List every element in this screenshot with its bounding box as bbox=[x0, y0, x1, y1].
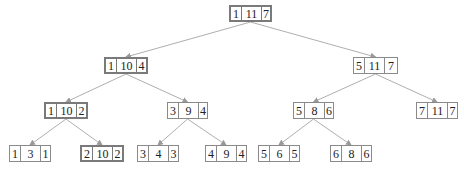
node-value: 5 bbox=[354, 58, 364, 73]
node-value: 2 bbox=[76, 104, 86, 117]
node-value: 2 bbox=[82, 147, 92, 160]
node-value: 8 bbox=[304, 103, 324, 118]
tree-node: 686 bbox=[330, 145, 372, 162]
tree-edge bbox=[66, 74, 126, 102]
node-value: 1 bbox=[40, 146, 50, 161]
tree-node: 1104 bbox=[104, 57, 148, 74]
node-value: 5 bbox=[259, 146, 269, 161]
node-value: 4 bbox=[206, 146, 216, 161]
tree-edge bbox=[279, 119, 314, 145]
node-value: 10 bbox=[56, 104, 76, 117]
tree-edge bbox=[126, 74, 188, 102]
node-value: 10 bbox=[92, 147, 112, 160]
tree-node: 131 bbox=[9, 145, 51, 162]
node-value: 9 bbox=[178, 103, 198, 118]
node-value: 1 bbox=[46, 104, 56, 117]
node-value: 7 bbox=[261, 7, 270, 20]
node-value: 3 bbox=[168, 103, 178, 118]
node-value: 6 bbox=[324, 103, 333, 118]
node-value: 3 bbox=[168, 146, 178, 161]
tree-edge bbox=[126, 22, 251, 57]
tree-edge bbox=[251, 22, 376, 57]
tree-node: 7117 bbox=[416, 102, 458, 119]
node-value: 6 bbox=[361, 146, 371, 161]
tree-node: 586 bbox=[293, 102, 334, 119]
tree-node: 1102 bbox=[44, 102, 88, 119]
tree-node: 2102 bbox=[80, 145, 124, 162]
node-value: 5 bbox=[289, 146, 299, 161]
tree-node: 5117 bbox=[353, 57, 398, 74]
node-value: 1 bbox=[231, 7, 241, 20]
tree-edge bbox=[158, 119, 188, 145]
tree-edge bbox=[376, 74, 438, 102]
node-value: 6 bbox=[331, 146, 341, 161]
node-value: 10 bbox=[116, 59, 136, 72]
node-value: 7 bbox=[384, 58, 397, 73]
node-value: 4 bbox=[136, 59, 146, 72]
tree-edge bbox=[188, 119, 227, 145]
tree-edge bbox=[314, 119, 352, 145]
node-value: 6 bbox=[269, 146, 289, 161]
node-value: 4 bbox=[148, 146, 168, 161]
node-value: 11 bbox=[427, 103, 447, 118]
node-value: 3 bbox=[138, 146, 148, 161]
tree-node: 394 bbox=[167, 102, 208, 119]
node-value: 11 bbox=[364, 58, 384, 73]
node-value: 2 bbox=[112, 147, 122, 160]
node-value: 1 bbox=[106, 59, 116, 72]
tree-node: 1117 bbox=[229, 5, 272, 22]
tree-edge bbox=[66, 119, 102, 145]
tree-edge bbox=[314, 74, 376, 102]
node-value: 7 bbox=[417, 103, 427, 118]
node-value: 4 bbox=[198, 103, 207, 118]
tree-node: 343 bbox=[137, 145, 179, 162]
node-value: 9 bbox=[216, 146, 236, 161]
tree-node: 565 bbox=[258, 145, 300, 162]
node-value: 7 bbox=[447, 103, 457, 118]
node-value: 3 bbox=[20, 146, 40, 161]
node-value: 11 bbox=[241, 7, 261, 20]
node-value: 5 bbox=[294, 103, 304, 118]
node-value: 8 bbox=[341, 146, 361, 161]
tree-node: 494 bbox=[205, 145, 247, 162]
tree-edge bbox=[30, 119, 66, 145]
node-value: 1 bbox=[10, 146, 20, 161]
node-value: 4 bbox=[236, 146, 246, 161]
